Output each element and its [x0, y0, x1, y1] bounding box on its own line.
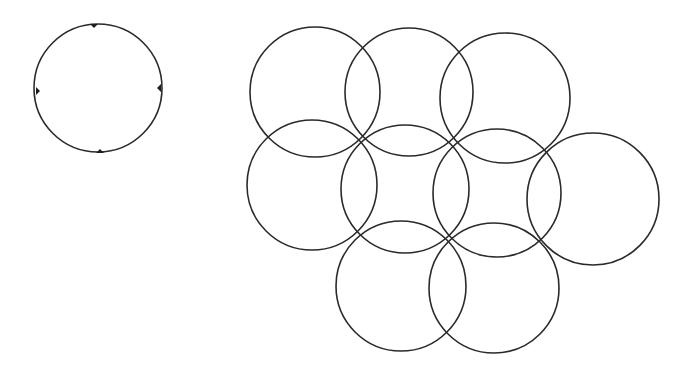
cluster-circle-7	[527, 133, 659, 265]
cluster-circle-4	[247, 120, 377, 250]
cluster-circle-3	[440, 33, 570, 163]
mark-left	[36, 87, 40, 95]
drawing-canvas	[0, 0, 687, 378]
mark-bottom	[96, 149, 104, 153]
circle-cluster	[247, 27, 659, 353]
single-circle-group	[34, 24, 162, 153]
mark-top	[90, 24, 98, 28]
cluster-circle-1	[250, 27, 380, 157]
cluster-circle-5	[341, 125, 469, 253]
circles-diagram	[0, 0, 687, 378]
single-circle	[34, 24, 162, 152]
cluster-circle-9	[429, 223, 559, 353]
mark-right	[157, 84, 161, 92]
